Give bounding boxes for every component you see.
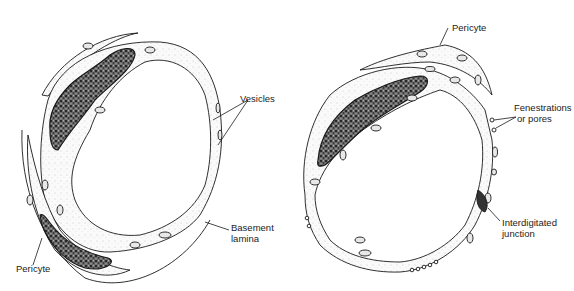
label-pericyte-right: Pericyte [452, 22, 486, 33]
label-fenestrations-line1: Fenestrations [514, 102, 572, 113]
capillary-diagram: Vesicles Basement lamina Pericyte Pericy… [0, 0, 574, 291]
right-capillary [304, 28, 516, 272]
left-capillary [22, 33, 248, 283]
label-junction-line1: Interdigitated [502, 217, 557, 228]
label-junction-line2: junction [502, 228, 535, 239]
label-vesicles: Vesicles [240, 93, 275, 104]
label-pericyte-left: Pericyte [16, 263, 50, 274]
label-basement-lamina-line2: lamina [231, 233, 259, 244]
label-basement-lamina-line1: Basement [231, 222, 274, 233]
label-fenestrations-line2: or pores [517, 113, 552, 124]
capillary-illustration [0, 0, 574, 291]
